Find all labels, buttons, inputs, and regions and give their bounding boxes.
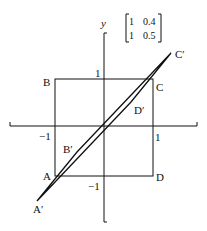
point-A-prime-label: A′: [33, 203, 43, 215]
svg-text:0.5: 0.5: [143, 30, 156, 41]
tick-y-neg: −1: [88, 180, 100, 192]
tick-x-neg: −1: [39, 130, 51, 142]
point-A-label: A: [43, 170, 51, 182]
svg-text:1: 1: [129, 16, 134, 27]
diagram: y 1 0.4 1 0.5 1 −1 −1 1 B C A D A′ B′ C′…: [0, 0, 207, 231]
point-C-prime-label: C′: [175, 48, 185, 60]
point-C-label: C: [156, 81, 163, 93]
svg-text:0.4: 0.4: [143, 16, 156, 27]
tick-x-pos: 1: [155, 131, 161, 143]
point-B-prime-label: B′: [63, 143, 73, 155]
y-axis-label: y: [100, 17, 106, 29]
tick-y-pos: 1: [95, 67, 101, 79]
transform-matrix: 1 0.4 1 0.5: [126, 14, 161, 42]
point-B-label: B: [43, 76, 50, 88]
svg-text:1: 1: [129, 30, 134, 41]
point-D-prime-label: D′: [134, 104, 144, 116]
point-D-label: D: [156, 171, 164, 183]
linear-transform-figure: y 1 0.4 1 0.5 1 −1 −1 1 B C A D A′ B′ C′…: [0, 0, 207, 231]
